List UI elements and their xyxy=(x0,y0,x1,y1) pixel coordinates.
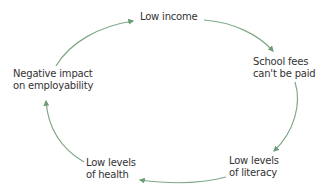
node-label-line: of health xyxy=(86,169,136,181)
node-negative-impact: Negative impact on employability xyxy=(13,68,93,92)
arrow-low-literacy-to-low-health xyxy=(140,177,226,183)
node-label-line: Low levels xyxy=(86,157,136,169)
node-label-line: School fees xyxy=(253,56,316,68)
arrow-low-income-to-school-fees xyxy=(204,20,273,51)
node-low-health: Low levels of health xyxy=(86,157,136,181)
arrow-school-fees-to-low-literacy xyxy=(274,82,297,151)
node-school-fees: School fees can't be paid xyxy=(253,56,316,80)
node-label-line: can't be paid xyxy=(253,68,316,80)
node-label-line: Low levels xyxy=(229,155,279,167)
node-label-line: Low income xyxy=(140,11,198,23)
node-label-line: of literacy xyxy=(229,167,279,179)
node-label-line: Negative impact xyxy=(13,68,93,80)
arrow-low-health-to-negative-impact xyxy=(46,101,84,162)
arrow-negative-impact-to-low-income xyxy=(56,21,133,66)
cycle-arrows xyxy=(0,0,330,193)
node-label-line: on employability xyxy=(13,80,93,92)
poverty-cycle-diagram: Low income School fees can't be paid Low… xyxy=(0,0,330,193)
node-low-literacy: Low levels of literacy xyxy=(229,155,279,179)
node-low-income: Low income xyxy=(140,11,198,23)
